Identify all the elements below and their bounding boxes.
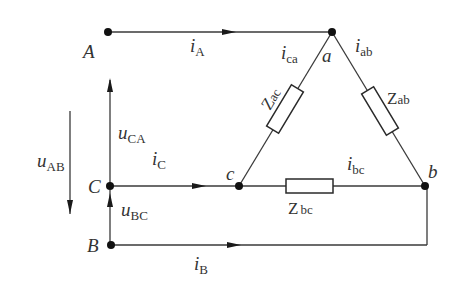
label-uBC: uBC — [121, 199, 148, 223]
arrow-iC-icon — [192, 183, 206, 189]
label-ibc: ibc — [347, 153, 365, 177]
arrow-uCA-icon — [107, 78, 113, 92]
label-iB: iB — [194, 253, 208, 277]
arrow-iB-icon — [227, 242, 241, 248]
resistor-Zbc — [286, 179, 333, 193]
node-A — [104, 28, 112, 36]
label-C: C — [88, 176, 101, 197]
label-c: c — [226, 163, 235, 184]
label-iab: iab — [355, 35, 373, 59]
node-B — [107, 241, 115, 249]
circuit-diagram: A a C c b B iA iC iB ica iab ibc uCA uBC… — [0, 0, 463, 303]
arrow-uAB-icon — [67, 200, 73, 214]
node-C — [106, 182, 114, 190]
node-a — [328, 28, 336, 36]
label-a: a — [322, 45, 332, 66]
label-ica: ica — [281, 42, 298, 66]
arrow-iA-icon — [222, 29, 236, 35]
label-B: B — [87, 235, 99, 256]
node-b — [421, 182, 429, 190]
arrow-uBC-icon — [107, 193, 113, 207]
label-A: A — [81, 41, 95, 62]
label-b: b — [428, 161, 438, 182]
label-iA: iA — [190, 35, 205, 59]
label-iC: iC — [152, 148, 166, 172]
label-Zab: Zab — [387, 89, 410, 108]
node-c — [235, 182, 243, 190]
label-uAB: uAB — [37, 150, 65, 174]
label-uCA: uCA — [118, 122, 146, 146]
label-Zbc: Zbc — [288, 199, 313, 218]
